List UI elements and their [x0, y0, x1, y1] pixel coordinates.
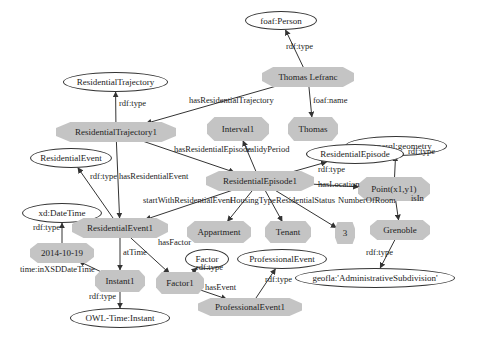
edge-label: isIn	[411, 193, 424, 203]
edge-label: hasResidentialEvent	[119, 171, 188, 181]
edge-label: rdf:type	[286, 41, 313, 51]
edge-label: hasLocation	[318, 179, 360, 189]
edge-label: hasResidentialEpisode	[174, 144, 251, 154]
edge-arrow	[309, 87, 312, 117]
instance-node: Thomas	[288, 117, 338, 141]
edge-label: ResidentialStatus	[276, 195, 335, 205]
edge-label: rdf:type	[90, 171, 117, 181]
edge-label: foaf:name	[313, 95, 347, 105]
class-node: ResidentialTrajectory	[63, 72, 168, 92]
instance-node: 3	[335, 222, 355, 244]
edge-label: rdf:type	[119, 98, 146, 108]
edge-label: atTime	[123, 247, 147, 257]
class-node: ResidentialEpisode	[306, 144, 404, 164]
edge-label: hasResidentialTrajectory	[189, 95, 274, 105]
edge-label: rdf:type	[408, 146, 435, 156]
instance-node: ResidentialTrajectory1	[56, 122, 176, 142]
instance-node: Factor1	[156, 272, 204, 294]
instance-node: 2014-10-19	[30, 243, 94, 263]
edge-label: startWithResidentialEvent	[143, 195, 232, 205]
instance-node: ProfessionalEvent1	[198, 298, 302, 316]
edge-arrow	[396, 201, 399, 220]
rdf-graph-diagram: foaf:PersonThomas LefrancResidentialTraj…	[0, 0, 477, 348]
instance-node: Thomas Lefranc	[262, 67, 354, 87]
instance-node: Appartment	[187, 221, 251, 243]
instance-node: ResidentialEvent1	[72, 218, 168, 238]
class-node: ResidentialEvent	[30, 148, 112, 168]
edge-label: time:inXSDDateTime	[20, 264, 95, 274]
instance-node: ResidentialEpisode1	[206, 171, 314, 191]
class-node: foaf:Person	[245, 11, 317, 30]
edge-label: rdf:type	[366, 247, 393, 257]
edge-label: rdf:type	[33, 222, 60, 232]
edge-label: NumberOfRoom	[338, 195, 396, 205]
edge-label: rdf:type	[318, 164, 345, 174]
class-node: ProfessionalEvent	[237, 249, 327, 269]
instance-node: Instant1	[95, 270, 145, 292]
edge-label: hasEvent	[205, 282, 236, 292]
edge-label: hasFactor	[158, 237, 191, 247]
instance-node: Grenoble	[370, 220, 430, 240]
edge-label: rdf:type	[89, 291, 116, 301]
instance-node: Interval1	[207, 117, 269, 141]
instance-node: Tenant	[265, 221, 311, 243]
edge-label: HousingType	[230, 195, 276, 205]
edge-label: validyPeriod	[246, 144, 289, 154]
edge-label: rdf:type	[196, 262, 223, 272]
class-node: OWL-Time:Instant	[70, 308, 170, 328]
class-node: geofla:'AdministrativeSubdivision'	[295, 268, 455, 288]
edge-label: rdf:type	[265, 274, 292, 284]
